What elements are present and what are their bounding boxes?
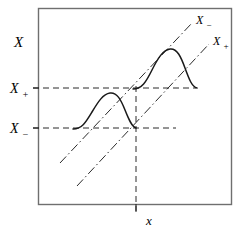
upper-diagonal-label-base: X	[195, 13, 204, 27]
y-axis-label: X	[13, 34, 24, 50]
y-tick-label-x-plus-base: X	[9, 81, 19, 96]
chart-background	[0, 0, 243, 229]
lower-diagonal-label-sub: +	[223, 41, 229, 51]
lower-diagonal-label-base: X	[212, 34, 221, 48]
y-tick-label-x-minus-sub: −	[22, 129, 29, 140]
y-tick-label-x-minus-base: X	[9, 121, 19, 136]
upper-diagonal-label-sub: −	[206, 20, 212, 30]
chart-figure: X x X + X − X − X +	[0, 0, 243, 229]
x-axis-label: x	[145, 213, 152, 228]
y-tick-label-x-plus-sub: +	[22, 89, 29, 100]
chart-canvas: X x X + X − X − X +	[0, 0, 243, 229]
